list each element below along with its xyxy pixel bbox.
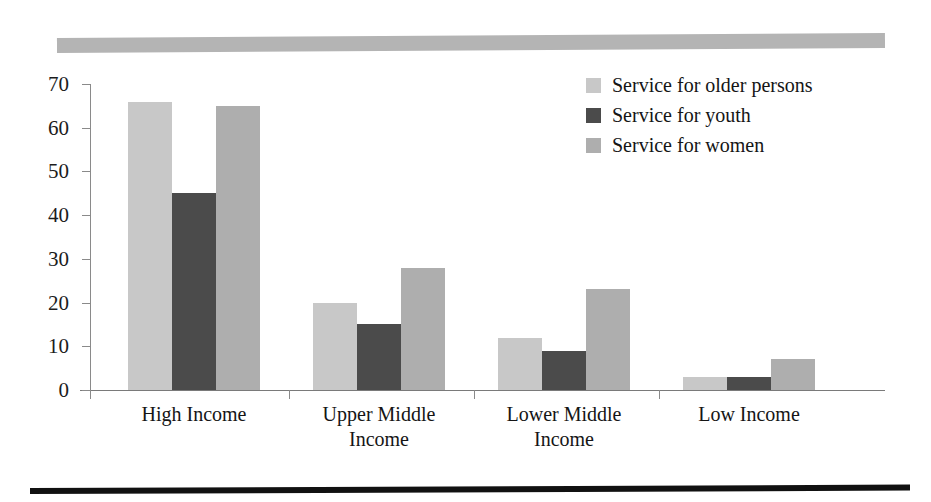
- legend-label-0: Service for older persons: [612, 70, 813, 100]
- bar-service-for-women-lower-middle-income: [586, 289, 630, 390]
- bar-service-for-youth-lower-middle-income: [542, 351, 586, 390]
- legend-label-2: Service for women: [612, 130, 764, 160]
- y-tick-label-20: 20: [48, 292, 69, 313]
- y-tick-label-60: 60: [48, 117, 69, 138]
- category-label-3: Low Income: [639, 402, 859, 427]
- x-tick-0: [90, 390, 91, 399]
- y-tick-70: 70: [82, 84, 90, 85]
- y-tick-10: 10: [82, 346, 90, 347]
- legend-item-2: Service for women: [586, 130, 813, 160]
- y-tick-label-70: 70: [48, 74, 69, 95]
- bar-service-for-women-low-income: [771, 359, 815, 390]
- y-tick-30: 30: [82, 259, 90, 260]
- bar-service-for-women-upper-middle-income: [401, 268, 445, 390]
- top-gray-band: [57, 33, 885, 53]
- legend-swatch-icon-2: [586, 138, 601, 153]
- bar-service-for-older-persons-high-income: [128, 102, 172, 391]
- bar-service-for-women-high-income: [216, 106, 260, 390]
- legend-label-1: Service for youth: [612, 100, 751, 130]
- y-tick-label-0: 0: [59, 380, 70, 401]
- bar-service-for-older-persons-lower-middle-income: [498, 338, 542, 390]
- bar-service-for-youth-high-income: [172, 193, 216, 390]
- legend-item-0: Service for older persons: [586, 70, 813, 100]
- bar-service-for-youth-low-income: [727, 377, 771, 390]
- y-tick-label-40: 40: [48, 205, 69, 226]
- bar-service-for-older-persons-low-income: [683, 377, 727, 390]
- x-tick-2: [474, 390, 475, 399]
- y-tick-0: 0: [82, 390, 90, 391]
- y-tick-60: 60: [82, 128, 90, 129]
- legend-swatch-icon-1: [586, 108, 601, 123]
- y-tick-50: 50: [82, 171, 90, 172]
- legend-item-1: Service for youth: [586, 100, 813, 130]
- y-tick-20: 20: [82, 303, 90, 304]
- chart-page: 010203040506070 High IncomeUpper Middle …: [0, 0, 931, 502]
- bottom-black-rule: [30, 485, 910, 494]
- y-tick-40: 40: [82, 215, 90, 216]
- y-tick-label-50: 50: [48, 161, 69, 182]
- y-tick-label-10: 10: [48, 336, 69, 357]
- legend-swatch-icon-0: [586, 78, 601, 93]
- y-tick-label-30: 30: [48, 248, 69, 269]
- bar-service-for-older-persons-upper-middle-income: [313, 303, 357, 390]
- chart-legend: Service for older personsService for you…: [586, 70, 813, 160]
- x-tick-1: [289, 390, 290, 399]
- x-tick-3: [659, 390, 660, 399]
- x-axis-line: [80, 390, 885, 391]
- bar-service-for-youth-upper-middle-income: [357, 324, 401, 390]
